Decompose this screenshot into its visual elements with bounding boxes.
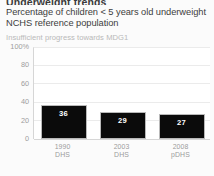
y-tick-label: 0 xyxy=(25,135,29,142)
bar-slot: 27 xyxy=(159,48,205,139)
bar-value-label: 27 xyxy=(160,118,204,127)
x-tick-source: DHS xyxy=(33,151,92,160)
x-tick-year: 1990 xyxy=(55,143,71,150)
bar-series: 362927 xyxy=(34,48,210,139)
page-title: Underweight trends xyxy=(6,0,210,5)
x-tick-label: 2008pDHS xyxy=(151,143,210,160)
y-tick-label: 60 xyxy=(21,80,29,87)
bar-slot: 36 xyxy=(41,48,87,139)
axis-baseline xyxy=(34,139,210,140)
y-tick-label: 100% xyxy=(10,43,29,50)
x-tick-year: 2008 xyxy=(173,143,189,150)
bar-value-label: 36 xyxy=(42,109,86,118)
x-tick-source: pDHS xyxy=(151,151,210,160)
plot-area: 362927 xyxy=(33,47,210,139)
y-axis: 020406080100% xyxy=(0,44,31,139)
y-tick-label: 20 xyxy=(21,117,29,124)
x-tick-year: 2003 xyxy=(114,143,130,150)
chart-header: Underweight trends Percentage of childre… xyxy=(6,0,210,42)
chart-subtitle: Percentage of children < 5 years old und… xyxy=(6,7,210,30)
x-tick-label: 1990DHS xyxy=(33,143,92,160)
y-tick-label: 40 xyxy=(21,98,29,105)
bar[interactable]: 27 xyxy=(159,114,205,139)
bar[interactable]: 36 xyxy=(41,105,87,138)
y-tick-label: 80 xyxy=(21,61,29,68)
chart-annotation-note: Insufficient progress towards MDG1 xyxy=(6,33,210,42)
bar[interactable]: 29 xyxy=(100,112,146,139)
underweight-trends-chart-card: Underweight trends Percentage of childre… xyxy=(0,0,214,176)
x-tick-source: DHS xyxy=(92,151,151,160)
bar-slot: 29 xyxy=(100,48,146,139)
chart-plot-wrapper: 020406080100% 362927 1990DHS2003DHS2008p… xyxy=(0,44,214,176)
x-tick-label: 2003DHS xyxy=(92,143,151,160)
bar-value-label: 29 xyxy=(101,116,145,125)
